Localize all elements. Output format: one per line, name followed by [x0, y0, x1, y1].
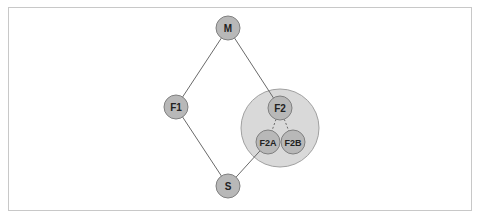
edge-f1-s — [176, 107, 228, 186]
node-label-m: M — [224, 23, 232, 34]
node-label-f2: F2 — [274, 103, 286, 114]
edge-m-f1 — [176, 28, 228, 107]
edge-m-f2 — [228, 28, 280, 108]
node-label-f2a: F2A — [259, 138, 277, 148]
node-label-f2b: F2B — [284, 138, 302, 148]
node-label-s: S — [225, 181, 232, 192]
branch-diagram: M F1 F2 F2A F2B S — [0, 0, 479, 220]
node-label-f1: F1 — [170, 102, 182, 113]
